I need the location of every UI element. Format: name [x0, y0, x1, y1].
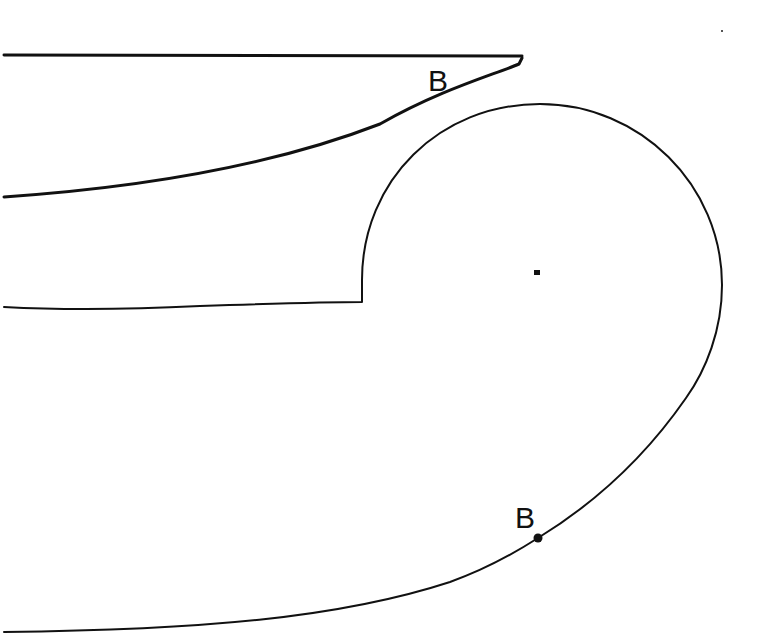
diagram-canvas: B B [0, 0, 772, 644]
point-b-marker [534, 534, 543, 543]
volute-outline [4, 104, 722, 632]
stray-mark [721, 30, 723, 32]
label-b-lower: B [515, 501, 535, 534]
top-edge-line [4, 55, 522, 56]
center-mark [534, 270, 540, 275]
label-b-upper: B [428, 64, 448, 97]
